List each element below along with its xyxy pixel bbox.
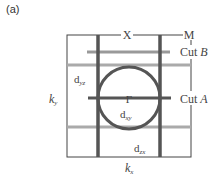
orbital-dyz-label: dyz <box>74 73 86 87</box>
point-gamma-label: Γ <box>126 93 132 105</box>
axis-ky-label: ky <box>49 92 58 107</box>
orbital-dzx-label: dzx <box>134 142 146 156</box>
point-m-label: M <box>184 28 195 42</box>
point-x-label: X <box>123 28 132 42</box>
cut-a-label: Cut A <box>180 92 208 106</box>
brillouin-zone-diagram: X M Γ Cut B Cut A dyz dxy dzx ky kx <box>0 0 224 177</box>
orbital-dxy-label: dxy <box>120 108 133 122</box>
axis-kx-label: kx <box>125 161 134 176</box>
cut-b-label: Cut B <box>180 45 208 59</box>
